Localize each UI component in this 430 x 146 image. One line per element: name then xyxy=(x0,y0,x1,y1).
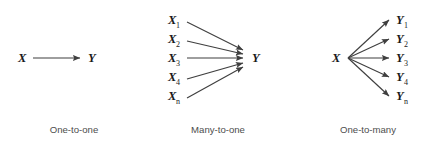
panel-caption-many-to-one: Many-to-one xyxy=(191,124,245,135)
panel-caption-one-to-one: One-to-one xyxy=(50,124,99,135)
target-node-label: Y xyxy=(88,51,97,65)
panel-caption-one-to-many: One-to-many xyxy=(340,124,396,135)
edges-one-to-many xyxy=(348,20,389,96)
source-node-subscript: 2 xyxy=(176,40,180,49)
source-node-many-to-one-2: X3 xyxy=(167,51,180,68)
edge-arrow-many-to-one-1 xyxy=(187,41,243,54)
target-node-one-to-many-2: Y3 xyxy=(396,51,408,68)
target-node-subscript: 4 xyxy=(404,78,408,87)
source-node-subscript: n xyxy=(176,97,180,106)
source-node-one-to-one-0: X xyxy=(17,51,27,65)
target-node-many-to-one-0: Y xyxy=(252,51,261,65)
source-node-label: X xyxy=(17,51,27,65)
source-node-many-to-one-1: X2 xyxy=(167,32,180,49)
edges-many-to-one xyxy=(187,22,243,98)
source-node-label: X xyxy=(331,51,341,65)
source-node-subscript: 3 xyxy=(176,59,180,68)
target-node-label: Y xyxy=(252,51,261,65)
panel-one-to-one: XYOne-to-one xyxy=(17,51,98,135)
target-node-one-to-many-4: Yn xyxy=(396,89,408,106)
panels-group: XYOne-to-oneX1X2X3X4XnYMany-to-oneXY1Y2Y… xyxy=(17,13,408,135)
target-node-one-to-one-0: Y xyxy=(88,51,97,65)
diagram-canvas: XYOne-to-oneX1X2X3X4XnYMany-to-oneXY1Y2Y… xyxy=(0,0,430,146)
source-node-subscript: 1 xyxy=(176,21,180,30)
source-node-one-to-many-0: X xyxy=(331,51,341,65)
source-node-many-to-one-4: Xn xyxy=(167,89,180,106)
panel-many-to-one: X1X2X3X4XnYMany-to-one xyxy=(167,13,261,135)
edge-arrow-one-to-many-4 xyxy=(348,58,389,96)
target-node-subscript: 2 xyxy=(404,40,408,49)
edge-arrow-one-to-many-3 xyxy=(348,58,389,77)
relationship-cardinality-diagram: XYOne-to-oneX1X2X3X4XnYMany-to-oneXY1Y2Y… xyxy=(0,0,430,146)
edge-arrow-many-to-one-0 xyxy=(187,22,243,50)
source-node-many-to-one-3: X4 xyxy=(167,70,180,87)
edge-arrow-one-to-many-1 xyxy=(348,39,389,58)
edge-arrow-one-to-many-0 xyxy=(348,20,389,58)
target-node-one-to-many-0: Y1 xyxy=(396,13,408,30)
panel-one-to-many: XY1Y2Y3Y4YnOne-to-many xyxy=(331,13,408,135)
target-node-one-to-many-1: Y2 xyxy=(396,32,408,49)
source-node-subscript: 4 xyxy=(176,78,180,87)
target-node-subscript: n xyxy=(404,97,408,106)
source-node-many-to-one-0: X1 xyxy=(167,13,180,30)
target-node-subscript: 1 xyxy=(404,21,408,30)
target-node-one-to-many-3: Y4 xyxy=(396,70,408,87)
target-node-subscript: 3 xyxy=(404,59,408,68)
edge-arrow-many-to-one-4 xyxy=(187,67,243,98)
